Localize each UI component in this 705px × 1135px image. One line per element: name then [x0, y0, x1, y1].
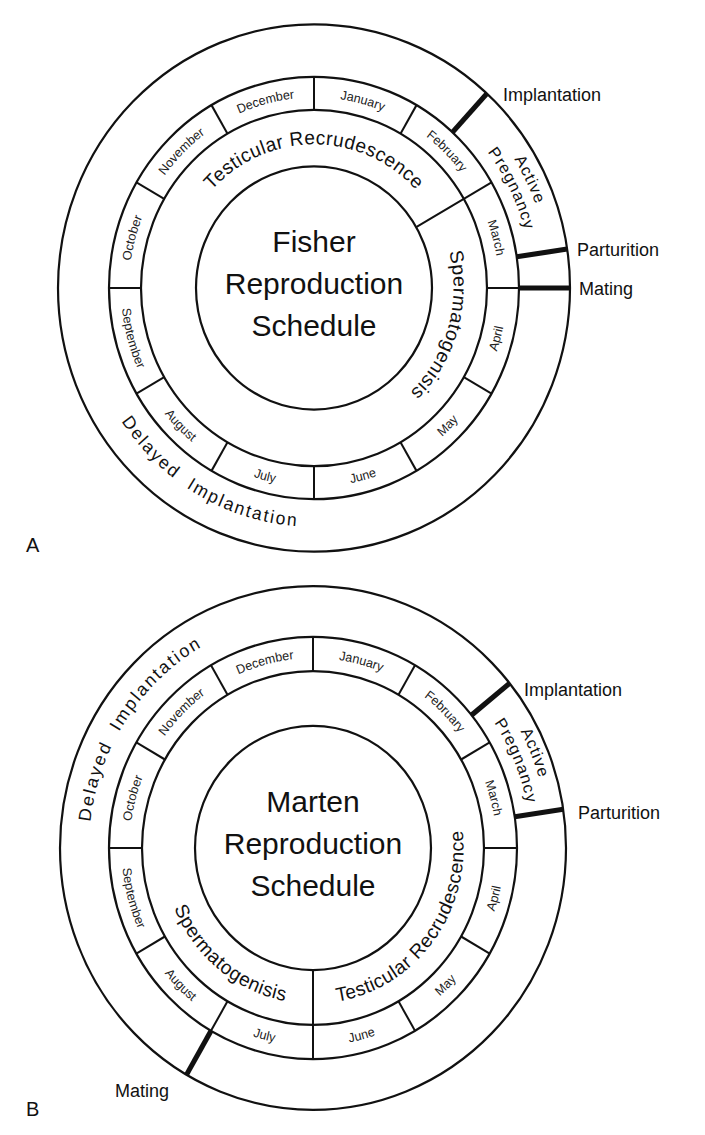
schedule-title-line: Marten — [266, 785, 359, 818]
marten-reproduction-schedule: JanuaryFebruaryMarchAprilMayJuneJulyAugu… — [26, 586, 660, 1120]
month-label-june: June — [348, 465, 377, 486]
month-divider — [136, 377, 164, 393]
month-label-july: July — [252, 466, 277, 486]
month-label-october: October — [120, 772, 146, 822]
mating-marker — [187, 1031, 212, 1075]
month-divider — [399, 1001, 416, 1031]
implantation-marker — [472, 683, 510, 715]
month-label-january: January — [340, 88, 388, 114]
month-divider — [212, 105, 228, 134]
month-label-january: January — [338, 648, 386, 675]
month-divider — [461, 742, 490, 759]
month-divider — [401, 105, 417, 134]
panel-letter: A — [26, 534, 40, 556]
month-divider — [401, 442, 417, 471]
fisher-reproduction-schedule: JanuaryFebruaryMarchAprilMayJuneJulyAugu… — [26, 24, 659, 556]
month-label-march: March — [485, 218, 507, 257]
schedule-title-line: Reproduction — [225, 267, 403, 300]
implantation-event-label: Implantation — [524, 680, 622, 700]
month-label-august: August — [162, 406, 199, 444]
month-divider — [464, 182, 492, 198]
month-label-april: April — [486, 325, 506, 353]
parturition-event-label: Parturition — [578, 803, 660, 823]
schedule-title-line: Schedule — [250, 869, 375, 902]
month-divider — [136, 742, 165, 759]
month-label-may: May — [435, 412, 462, 439]
schedule-title-line: Reproduction — [224, 827, 402, 860]
mating-event-label: Mating — [579, 279, 633, 299]
mating-event-label: Mating — [115, 1081, 169, 1101]
month-divider — [461, 936, 490, 953]
month-label-november: November — [155, 684, 207, 738]
month-divider — [211, 1001, 228, 1031]
implantation-event-label: Implantation — [503, 85, 601, 105]
month-label-august: August — [162, 965, 200, 1004]
schedule-title-line: Fisher — [272, 225, 355, 258]
month-divider — [211, 665, 228, 695]
month-label-october: October — [120, 212, 145, 261]
month-divider — [212, 442, 228, 471]
schedule-title-line: Schedule — [251, 309, 376, 342]
month-label-june: June — [347, 1024, 377, 1046]
phase-divider — [416, 199, 464, 227]
month-label-march: March — [482, 778, 505, 817]
month-label-february: February — [422, 687, 469, 736]
testicular-recrudescence-label: Testicular Recrudescence — [200, 127, 429, 193]
month-divider — [399, 665, 416, 695]
parturition-marker — [517, 249, 567, 257]
month-label-november: November — [156, 125, 208, 178]
reproduction-schedule-diagram: JanuaryFebruaryMarchAprilMayJuneJulyAugu… — [0, 0, 705, 1135]
month-label-may: May — [432, 971, 459, 999]
month-label-february: February — [424, 128, 470, 176]
parturition-marker — [515, 809, 563, 816]
month-label-july: July — [252, 1025, 278, 1046]
implantation-marker — [452, 94, 486, 133]
parturition-event-label: Parturition — [577, 240, 659, 260]
month-divider — [464, 377, 492, 393]
panel-letter: B — [26, 1098, 39, 1120]
month-label-april: April — [483, 884, 504, 912]
month-divider — [136, 182, 164, 198]
month-divider — [136, 936, 165, 953]
